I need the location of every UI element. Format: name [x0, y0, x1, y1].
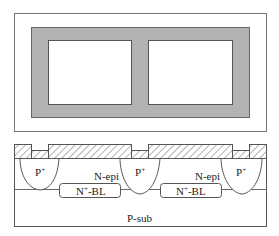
label-buried-layer-left: N+-BL: [76, 185, 106, 197]
island-left: [49, 41, 132, 105]
label-substrate: P-sub: [127, 212, 153, 224]
oxide-thick-3: [149, 145, 233, 159]
oxide-thin-2: [132, 151, 149, 159]
island-right: [149, 41, 233, 105]
top-view: [15, 14, 267, 132]
oxide-thick-1: [15, 145, 32, 159]
label-n-epi-left: N-epi: [94, 170, 119, 182]
cross-section: P+ P+ P+ N-epi N-epi N+-BL N+-BL P-sub: [15, 145, 267, 227]
isolation-diagram: P+ P+ P+ N-epi N-epi N+-BL N+-BL P-sub: [0, 0, 279, 236]
oxide-thick-4: [250, 145, 267, 159]
label-n-epi-right: N-epi: [195, 170, 220, 182]
oxide-thin-1: [32, 151, 49, 159]
oxide-thin-3: [233, 151, 250, 159]
label-buried-layer-right: N+-BL: [176, 185, 206, 197]
oxide-thick-2: [49, 145, 132, 159]
